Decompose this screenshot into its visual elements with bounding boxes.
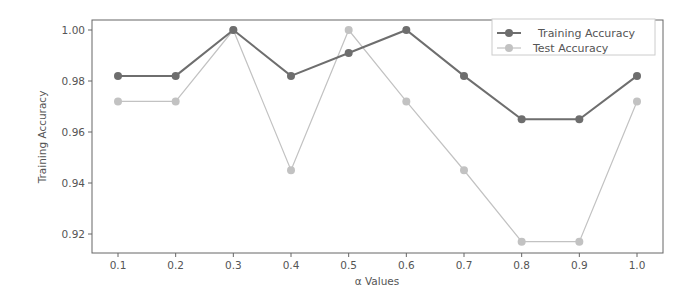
legend: Training Accuracy Test Accuracy — [492, 19, 655, 55]
line-chart: 0.920.940.960.981.00 0.10.20.30.40.50.60… — [0, 0, 694, 300]
legend-marker-test-icon — [505, 44, 513, 52]
data-point-marker-icon — [575, 115, 583, 123]
x-tick-label: 0.9 — [571, 259, 588, 271]
data-point-marker-icon — [633, 72, 641, 80]
data-point-marker-icon — [402, 26, 410, 34]
y-tick-label: 1.00 — [62, 24, 85, 36]
data-point-marker-icon — [229, 26, 237, 34]
data-point-marker-icon — [114, 97, 122, 105]
data-point-marker-icon — [633, 97, 641, 105]
data-point-marker-icon — [287, 72, 295, 80]
x-tick-label: 0.6 — [398, 259, 415, 271]
x-axis-label: α Values — [355, 275, 400, 287]
x-tick-label: 0.1 — [110, 259, 127, 271]
x-tick-label: 0.8 — [513, 259, 530, 271]
y-tick-label: 0.92 — [62, 228, 85, 240]
x-tick-label: 0.5 — [340, 259, 357, 271]
data-point-marker-icon — [402, 97, 410, 105]
legend-marker-training-icon — [505, 29, 513, 37]
y-axis: 0.920.940.960.981.00 — [62, 24, 92, 240]
x-tick-label: 0.3 — [225, 259, 242, 271]
data-point-marker-icon — [460, 166, 468, 174]
y-tick-label: 0.96 — [62, 126, 86, 138]
data-point-marker-icon — [460, 72, 468, 80]
x-tick-label: 0.2 — [167, 259, 184, 271]
x-tick-label: 0.4 — [283, 259, 300, 271]
data-point-marker-icon — [575, 238, 583, 246]
data-point-marker-icon — [345, 26, 353, 34]
x-tick-label: 0.7 — [456, 259, 473, 271]
x-tick-label: 1.0 — [629, 259, 646, 271]
data-point-marker-icon — [172, 72, 180, 80]
y-tick-label: 0.94 — [62, 177, 86, 189]
data-point-marker-icon — [345, 49, 353, 57]
x-axis: 0.10.20.30.40.50.60.70.80.91.0 — [110, 253, 646, 271]
data-point-marker-icon — [518, 238, 526, 246]
data-point-marker-icon — [287, 166, 295, 174]
data-point-marker-icon — [114, 72, 122, 80]
legend-label-training: Training Accuracy — [537, 27, 636, 40]
y-tick-label: 0.98 — [62, 75, 85, 87]
legend-label-test: Test Accuracy — [532, 42, 609, 55]
data-point-marker-icon — [518, 115, 526, 123]
y-axis-label: Training Accuracy — [36, 91, 48, 185]
data-point-marker-icon — [172, 97, 180, 105]
